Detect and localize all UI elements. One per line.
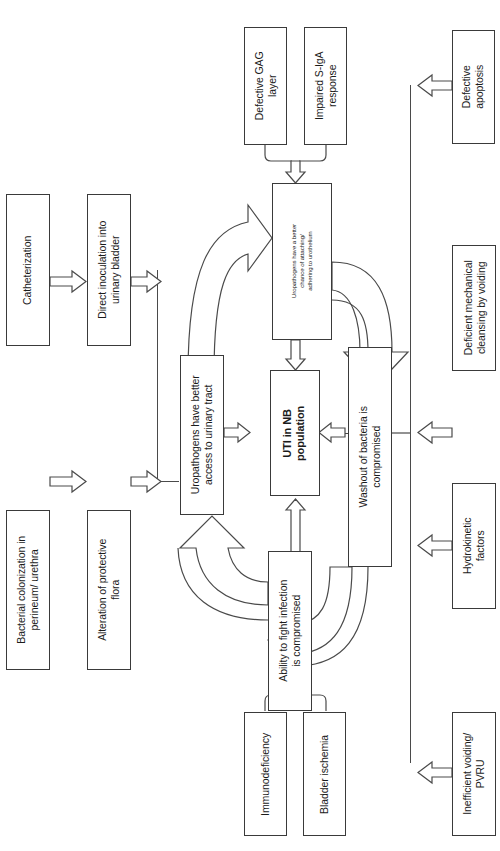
connector-right-bus-lower	[410, 433, 411, 763]
node-defective-apoptosis[interactable]: Defectiveapoptosis	[452, 30, 495, 144]
node-impaired-siga-label: Impaired S-IgAresponse	[313, 52, 339, 121]
node-direct-inoculation-label: Direct inoculation intourinary bladder	[96, 221, 122, 319]
node-bacterial-colonization[interactable]: Bacterial colonization inperineum/ ureth…	[6, 510, 50, 670]
node-bacterial-colonization-label: Bacterial colonization inperineum/ ureth…	[15, 536, 41, 644]
node-bladder-ischemia-label: Bladder ischemia	[318, 735, 331, 814]
node-defective-gag-label: Defective GAGlayer	[253, 52, 279, 121]
node-inefficient-voiding[interactable]: Inefficient voiding/PVRU	[452, 712, 496, 836]
node-deficient-cleansing-label: Deficient mechanicalcleansing by voiding	[461, 261, 487, 356]
node-washout-compromised[interactable]: Washout of bacteria iscompromised	[348, 347, 392, 567]
node-uropathogens-access-label: Uropathogens have betteraccess to urinar…	[189, 375, 215, 494]
node-deficient-cleansing[interactable]: Deficient mechanicalcleansing by voiding	[452, 245, 496, 371]
node-catheterization[interactable]: Catheterization	[6, 194, 50, 346]
node-alteration-flora[interactable]: Alteration of protectiveflora	[87, 510, 131, 670]
node-direct-inoculation[interactable]: Direct inoculation intourinary bladder	[87, 194, 131, 346]
flowchart-canvas: Catheterization Direct inoculation intou…	[0, 0, 500, 851]
node-uropathogens-adhere[interactable]: Uropathogens have a betterchance of atta…	[272, 183, 332, 340]
node-inefficient-voiding-label: Inefficient voiding/PVRU	[461, 733, 487, 815]
node-hydrokinetic-factors[interactable]: Hydrokineticfactors	[452, 483, 496, 609]
node-defective-apoptosis-label: Defectiveapoptosis	[461, 65, 487, 109]
node-uti-nb-population-label: UTI in NBpopulation	[282, 405, 309, 460]
node-immunodeficiency-label: Immunodeficiency	[259, 732, 272, 815]
node-immunodeficiency[interactable]: Immunodeficiency	[244, 712, 287, 836]
node-uti-nb-population[interactable]: UTI in NBpopulation	[270, 370, 320, 496]
node-bladder-ischemia[interactable]: Bladder ischemia	[303, 712, 346, 836]
node-uropathogens-adhere-label: Uropathogens have a betterchance of atta…	[290, 224, 314, 298]
connector-inoculation-trunk	[157, 270, 158, 482]
node-washout-compromised-label: Washout of bacteria iscompromised	[357, 406, 383, 507]
connector-access-uti	[224, 433, 248, 434]
node-ability-fight-infection[interactable]: Ability to fight infectionis compromised	[268, 551, 312, 711]
node-defective-gag[interactable]: Defective GAGlayer	[244, 27, 287, 145]
node-ability-fight-infection-label: Ability to fight infectionis compromised	[277, 580, 303, 682]
node-catheterization-label: Catheterization	[22, 235, 35, 304]
connector-flora-join	[157, 481, 179, 482]
connector-right-bus	[410, 85, 411, 433]
node-uropathogens-access[interactable]: Uropathogens have betteraccess to urinar…	[180, 355, 224, 515]
node-impaired-siga[interactable]: Impaired S-IgAresponse	[304, 27, 347, 145]
node-alteration-flora-label: Alteration of protectiveflora	[96, 539, 122, 641]
node-hydrokinetic-factors-label: Hydrokineticfactors	[461, 518, 487, 575]
